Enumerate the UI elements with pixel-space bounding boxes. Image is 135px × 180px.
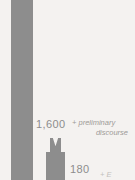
annotation-preliminary-line-1: + preliminary <box>72 118 134 128</box>
annotation-preliminary-line-2: discourse <box>72 128 134 138</box>
bar-group-1600 <box>46 136 65 180</box>
bar-tall-clipped <box>11 0 33 180</box>
value-label-180: 180 <box>70 163 90 175</box>
annotation-preliminary-discourse: + preliminary discourse <box>72 118 134 138</box>
bar-body-180 <box>46 152 65 180</box>
value-label-1600: 1,600 <box>36 118 66 130</box>
annotation-clipped-bottom-right: + E <box>100 170 135 179</box>
bar-chart-fragment: 1,600 180 + preliminary discourse + E <box>0 0 135 180</box>
